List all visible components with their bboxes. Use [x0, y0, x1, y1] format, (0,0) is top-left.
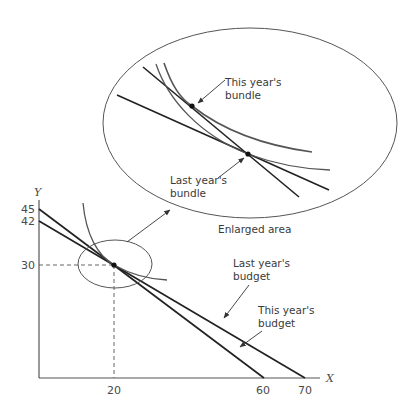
last-bundle-label-1: Last year's	[170, 174, 227, 186]
revealed-preference-diagram: This year's bundle Last year's bundle En…	[0, 0, 415, 417]
x-tick-70: 70	[298, 384, 312, 397]
enlarged-area-label: Enlarged area	[218, 223, 291, 235]
this-budget-label-2: budget	[258, 317, 295, 329]
enlarge-arrow	[127, 210, 170, 242]
y-tick-30: 30	[21, 259, 35, 272]
last-year-budget-line	[39, 221, 305, 378]
bundle-dot	[111, 262, 116, 267]
last-budget-arrow	[224, 285, 249, 318]
x-tick-60: 60	[256, 384, 270, 397]
enlarged-ellipse	[103, 28, 397, 218]
x-tick-20: 20	[107, 384, 121, 397]
this-budget-label-1: This year's	[257, 304, 315, 316]
last-budget-label-1: Last year's	[233, 257, 290, 269]
this-year-bundle-dot	[189, 103, 194, 108]
indifference-curve	[83, 203, 167, 280]
y-tick-42: 42	[21, 215, 35, 228]
this-bundle-label-1: This year's	[224, 76, 282, 88]
last-budget-label-2: budget	[233, 270, 270, 282]
this-budget-arrow	[240, 331, 262, 347]
y-axis-label: Y	[34, 186, 43, 199]
enlarged-area: This year's bundle Last year's bundle En…	[103, 28, 397, 235]
this-bundle-arrow	[198, 80, 225, 103]
main-chart: Y X 45 42 30 20 60 70 Last year's budget…	[21, 186, 335, 397]
last-year-bundle-dot	[245, 151, 250, 156]
this-bundle-label-2: bundle	[225, 89, 261, 101]
last-bundle-label-2: bundle	[170, 187, 206, 199]
x-axis-label: X	[325, 372, 335, 385]
